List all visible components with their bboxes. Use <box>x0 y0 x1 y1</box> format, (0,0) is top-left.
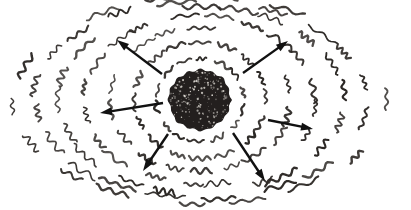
source-speckle <box>207 84 209 86</box>
source-speckle <box>211 111 212 112</box>
radiating-source-illustration: Radiating source with outward propagatin… <box>0 0 411 210</box>
source-speckle <box>195 94 196 95</box>
source-speckle <box>209 73 210 74</box>
source-speckle <box>178 100 180 102</box>
source-speckle <box>185 101 186 102</box>
source-speckle <box>179 81 181 83</box>
source-speckle <box>171 97 173 99</box>
source-speckle <box>188 94 190 96</box>
source-speckle <box>176 112 177 113</box>
source-speckle <box>193 121 194 122</box>
source-speckle <box>198 112 200 114</box>
source-speckle <box>207 82 209 84</box>
source-speckle <box>174 97 176 99</box>
source-speckle <box>205 78 206 79</box>
source-speckle <box>200 79 201 80</box>
source-speckle <box>207 109 208 110</box>
source-speckle <box>207 74 208 75</box>
source-speckle <box>189 87 191 89</box>
source-speckle <box>181 109 182 110</box>
source-speckle <box>190 94 191 95</box>
source-speckle <box>185 111 187 113</box>
source-speckle <box>208 98 210 100</box>
source-speckle <box>200 104 202 106</box>
source-speckle <box>182 79 184 81</box>
source-speckle <box>199 103 200 104</box>
source-speckle <box>215 92 216 93</box>
source-speckle <box>181 99 182 100</box>
source-speckle <box>202 125 203 126</box>
source-speckle <box>202 112 204 114</box>
source-speckle <box>218 80 219 81</box>
source-speckle <box>217 88 219 90</box>
source-speckle <box>189 116 190 117</box>
source-speckle <box>199 118 201 120</box>
source-speckle <box>181 116 182 117</box>
source-speckle <box>216 109 217 110</box>
source-speckle <box>214 108 215 109</box>
source-speckle <box>202 94 203 95</box>
source-speckle <box>179 104 181 106</box>
source-speckle <box>184 119 185 120</box>
source-speckle <box>200 87 202 89</box>
source-speckle <box>197 81 199 83</box>
source-speckle <box>213 87 215 89</box>
source-speckle <box>193 81 195 83</box>
source-speckle <box>198 97 199 98</box>
source-speckle <box>178 90 179 91</box>
source-speckle <box>173 86 174 87</box>
source-speckle <box>210 87 212 89</box>
source-speckle <box>179 94 180 95</box>
source-speckle <box>208 121 210 123</box>
source-speckle <box>199 83 200 84</box>
source-speckle <box>226 96 227 97</box>
source-speckle <box>196 101 197 102</box>
figure-canvas: Radiating source with outward propagatin… <box>0 0 411 210</box>
source-speckle <box>186 102 188 104</box>
source-speckle <box>219 78 220 79</box>
source-speckle <box>170 99 171 100</box>
source-speckle <box>212 89 213 90</box>
source-speckle <box>189 111 190 112</box>
source-speckle <box>213 82 215 84</box>
source-speckle <box>190 104 191 105</box>
source-speckle <box>198 105 200 107</box>
source-speckle <box>201 127 202 128</box>
source-speckle <box>210 84 212 86</box>
source-speckle <box>208 106 209 107</box>
source-speckle <box>196 110 198 112</box>
source-speckle <box>187 97 188 98</box>
source-speckle <box>197 79 199 81</box>
source-speckle <box>179 85 180 86</box>
source-speckle <box>221 114 222 115</box>
source-speckle <box>207 116 209 118</box>
source-speckle <box>173 93 174 94</box>
source-speckle <box>213 112 215 114</box>
source-speckle <box>177 105 178 106</box>
source-speckle <box>215 76 216 77</box>
source-speckle <box>197 73 198 74</box>
source-speckle <box>216 115 217 116</box>
source-speckle <box>214 109 215 110</box>
source-speckle <box>188 99 189 100</box>
source-speckle <box>182 110 184 112</box>
source-speckle <box>206 78 207 79</box>
source-speckle <box>201 92 203 94</box>
source-speckle <box>197 98 199 100</box>
source-speckle <box>227 105 228 106</box>
source-speckle <box>186 108 187 109</box>
source-speckle <box>220 83 221 84</box>
source-speckle <box>207 102 208 103</box>
source-speckle <box>211 104 212 105</box>
source-speckle <box>223 105 225 107</box>
source-speckle <box>204 82 205 83</box>
source-speckle <box>216 95 217 96</box>
source-speckle <box>181 101 183 103</box>
source-speckle <box>176 87 178 89</box>
source-speckle <box>209 122 210 123</box>
source-speckle <box>203 97 204 98</box>
source-speckle <box>215 98 217 100</box>
source-speckle <box>213 80 214 81</box>
source-speckle <box>186 95 187 96</box>
source-speckle <box>221 90 223 92</box>
